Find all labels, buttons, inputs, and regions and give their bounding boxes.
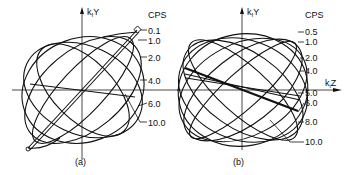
- panel-a-freq-label: 10.0: [148, 118, 166, 128]
- panel-a: kfY CPS 0.1 1.0 2.0 4.0 6.0 10.0 (a): [5, 7, 180, 167]
- lissajous-figure: kfY CPS 0.1 1.0 2.0 4.0 6.0 10.0 (a): [0, 0, 353, 175]
- panel-b-y-axis-label: kfY: [247, 7, 259, 18]
- panel-a-freq-label: 6.0: [148, 99, 161, 109]
- panel-a-freq-label: 2.0: [148, 53, 161, 63]
- panel-b-caption: (b): [233, 157, 244, 167]
- panel-b: kfY kiZ CPS 0.5 1.0 2.0 4.0 5.0 6.0 8.0 …: [161, 7, 342, 167]
- panel-a-y-axis-label: kfY: [87, 7, 99, 18]
- panel-b-freq-label: 1.0: [305, 37, 318, 47]
- panel-b-freq-label: 0.5: [305, 27, 318, 37]
- panel-a-freq-label: 0.1: [148, 26, 161, 36]
- panel-b-x-axis-label: kiZ: [325, 78, 337, 89]
- panel-a-freq-label: 4.0: [148, 76, 161, 86]
- panel-a-caption: (a): [75, 157, 86, 167]
- panel-b-y-axis-arrow-icon: [240, 7, 244, 14]
- panel-b-freq-label: 5.0: [305, 88, 318, 98]
- panel-a-legend-title: CPS: [148, 10, 167, 20]
- panel-b-freq-label: 10.0: [305, 137, 323, 147]
- panel-b-freq-label: 4.0: [305, 66, 318, 76]
- panel-b-legend-title: CPS: [305, 10, 324, 20]
- panel-b-x-axis-arrow-icon: [333, 88, 342, 92]
- panel-b-freq-label: 8.0: [305, 117, 318, 127]
- panel-b-freq-label: 6.0: [305, 98, 318, 108]
- panel-a-freq-label: 1.0: [148, 36, 161, 46]
- panel-b-freq-label: 2.0: [305, 53, 318, 63]
- panel-a-y-axis-arrow-icon: [80, 7, 84, 14]
